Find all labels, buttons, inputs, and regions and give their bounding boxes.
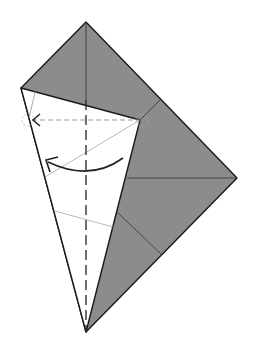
origami-diagram — [0, 0, 254, 356]
